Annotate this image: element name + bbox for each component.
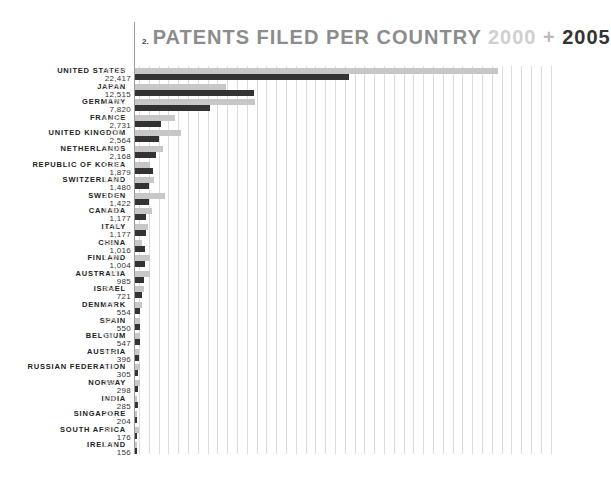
bar-2005 (135, 74, 349, 80)
chart-row: GERMANY12,5827,820 (0, 97, 586, 113)
bar-2005 (135, 308, 140, 314)
chart-row: INDIA190285 (0, 394, 586, 410)
chart-row: IRELAND235156 (0, 440, 586, 456)
chart-row: AUSTRIA464396 (0, 347, 586, 363)
value-2000: 964 (103, 284, 116, 293)
bar-2005 (135, 90, 254, 96)
bar-2005 (135, 246, 145, 252)
chart-row: SINGAPORE232204 (0, 409, 586, 425)
value-2000: 555 (103, 316, 116, 325)
chart-row: SPAIN555550 (0, 316, 586, 332)
bar-2005 (135, 105, 210, 111)
title-plus: + (536, 26, 562, 48)
bar-2005 (135, 448, 137, 454)
chart-row: SWEDEN3,0911,422 (0, 191, 586, 207)
bar-2005 (135, 121, 161, 127)
value-2000: 735 (103, 300, 116, 309)
title-main: PATENTS FILED PER COUNTRY (153, 26, 488, 48)
bar-2005 (135, 292, 142, 298)
value-2000: 387 (103, 425, 116, 434)
chart-row: SWITZERLAND1,9891,480 (0, 175, 586, 191)
chart-row: FINLAND1,5571,004 (0, 253, 586, 269)
title-year-2000: 2000 (488, 26, 537, 48)
chart-row: SOUTH AFRICA387176 (0, 425, 586, 441)
value-2000: 523 (103, 362, 116, 371)
bar-2005 (135, 168, 153, 174)
bar-2005 (135, 370, 138, 376)
bar-2005 (135, 152, 156, 158)
bar-2005 (135, 433, 137, 439)
bar-2005 (135, 199, 149, 205)
bar-2005 (135, 261, 145, 267)
chart-row: NORWAY548298 (0, 378, 586, 394)
value-2000: 548 (103, 378, 116, 387)
bar-2005 (135, 339, 140, 345)
chart-row: UNITED KINGDOM4,7952,564 (0, 128, 586, 144)
chart-row: REPUBLIC OF KOREA1,5801,879 (0, 160, 586, 176)
chart-row: CANADA1,8011,177 (0, 206, 586, 222)
chart-row: ITALY1,3941,177 (0, 222, 586, 238)
value-2000: 561 (103, 331, 116, 340)
bar-2005 (135, 183, 149, 189)
chart-title: 2.PATENTS FILED PER COUNTRY 2000 + 2005 (142, 26, 611, 49)
bar-2005 (135, 386, 138, 392)
bar-2005 (135, 277, 144, 283)
chart-row: DENMARK735554 (0, 300, 586, 316)
value-2000: 235 (103, 440, 116, 449)
chart-row: AUSTRALIA1,567985 (0, 269, 586, 285)
value-2000: 190 (103, 394, 116, 403)
bar-2005 (135, 230, 146, 236)
figure-number: 2. (142, 37, 149, 46)
chart-row: CHINA7841,016 (0, 238, 586, 254)
value-2000: 232 (103, 409, 116, 418)
title-year-2005: 2005 (562, 26, 611, 48)
chart-row: FRANCE4,1832,731 (0, 113, 586, 129)
value-2005: 156 (117, 448, 131, 457)
chart-row: UNITED STATES38,00722,417 (0, 66, 586, 82)
value-2000: 464 (103, 347, 116, 356)
bar-2005 (135, 402, 138, 408)
chart-row: NETHERLANDS2,9282,168 (0, 144, 586, 160)
chart-row: JAPAN9,56712,515 (0, 82, 586, 98)
chart-row: BELGIUM561547 (0, 331, 586, 347)
bar-2005 (135, 355, 139, 361)
bar-2005 (135, 324, 140, 330)
chart-row: ISRAEL964721 (0, 284, 586, 300)
bar-2005 (135, 136, 159, 142)
bar-2005 (135, 214, 146, 220)
bar-2005 (135, 417, 137, 423)
chart-row: RUSSIAN FEDERATION523305 (0, 362, 586, 378)
